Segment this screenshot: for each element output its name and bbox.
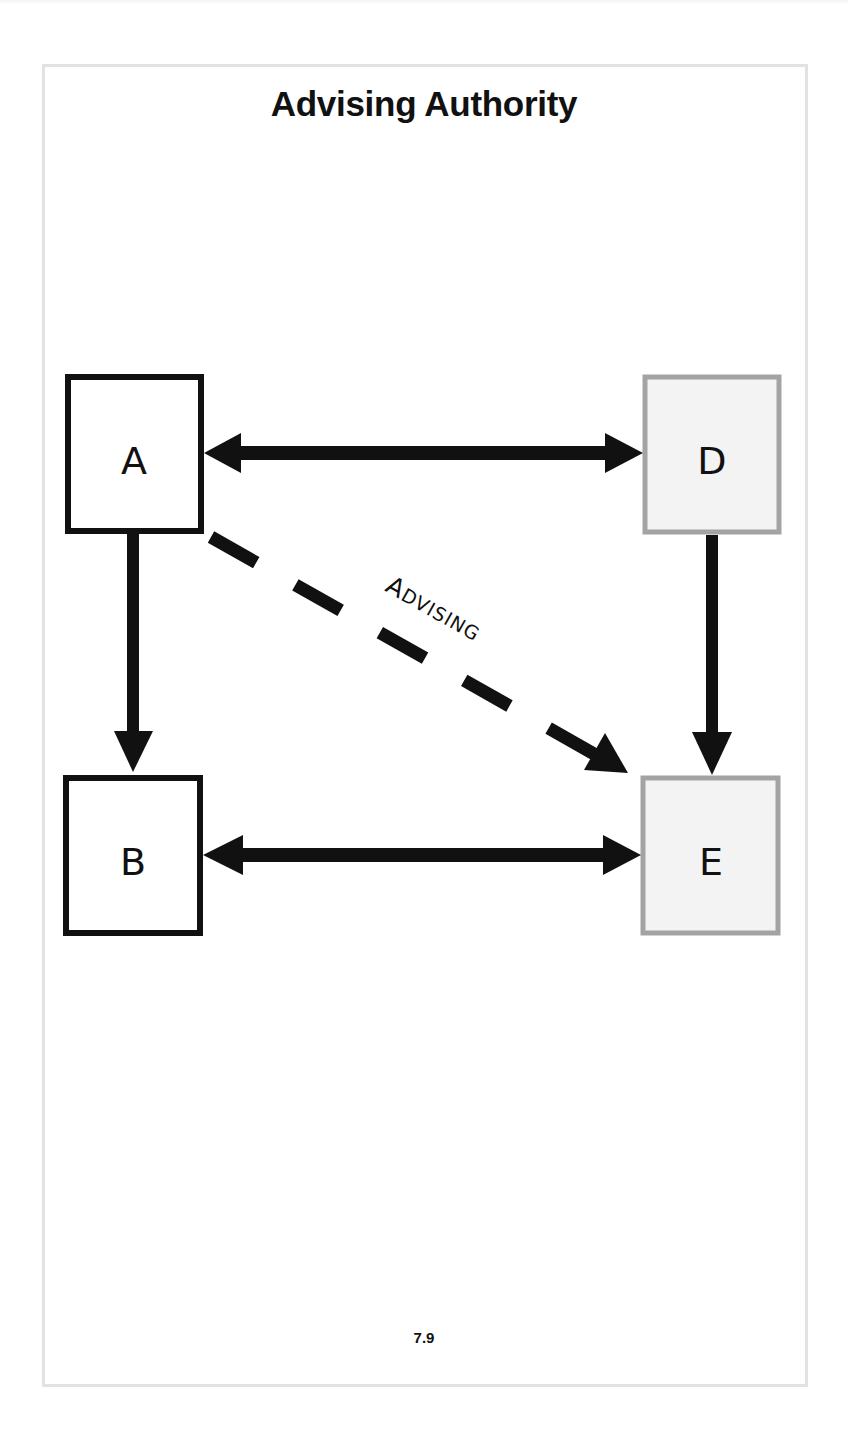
node-b[interactable]: B: [66, 778, 200, 933]
edge-a-b-arrow: [114, 534, 153, 772]
node-b-label: B: [120, 840, 146, 884]
node-e[interactable]: E: [643, 778, 778, 933]
node-a[interactable]: A: [68, 377, 201, 531]
edge-d-e-arrow: [692, 535, 732, 775]
node-e-label: E: [699, 840, 723, 884]
node-d-label: D: [697, 439, 726, 483]
authority-diagram: A D B E ADVISING: [0, 0, 848, 1449]
edge-b-e-bidirectional-arrow: [203, 835, 641, 875]
node-d[interactable]: D: [645, 377, 779, 532]
edge-a-e-advising-dashed-arrow: [211, 537, 628, 773]
edge-a-d-bidirectional-arrow: [204, 433, 643, 473]
page-number: 7.9: [0, 1329, 848, 1346]
node-a-label: A: [121, 439, 147, 483]
